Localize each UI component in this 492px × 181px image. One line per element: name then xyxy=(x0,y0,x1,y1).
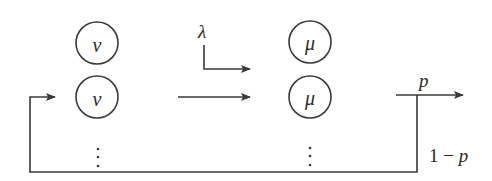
nu-server-2-label: ν xyxy=(93,89,102,109)
nu-ellipsis-dots xyxy=(97,148,100,168)
nu-server-1-label: ν xyxy=(93,35,102,55)
feedback-loop-arrow xyxy=(30,95,417,172)
mu-ellipsis-dots xyxy=(309,147,312,167)
mu-server-1-label: μ xyxy=(305,33,315,53)
lambda-arrival-arrow xyxy=(204,45,250,69)
lambda-label: λ xyxy=(198,22,206,41)
feedback-label-minus: − xyxy=(439,145,459,166)
feedback-label-one: 1 xyxy=(429,145,439,166)
feedback-probability-label: 1 − p xyxy=(429,146,468,165)
mu-server-2-label: μ xyxy=(305,88,315,108)
exit-probability-label: p xyxy=(419,71,429,90)
feedback-label-p: p xyxy=(459,145,469,166)
